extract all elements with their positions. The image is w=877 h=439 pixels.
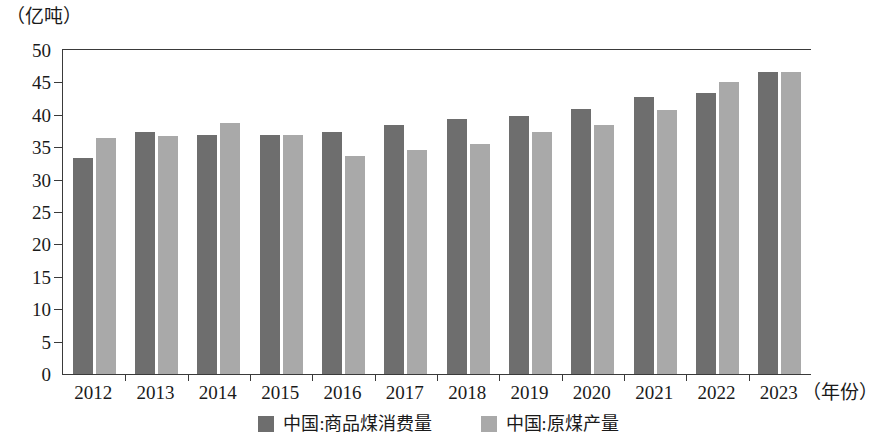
- bar-2019-series-1: [509, 116, 529, 374]
- bar-group-2015: [260, 50, 303, 374]
- y-tick-mark: [54, 309, 63, 310]
- y-tick-label: 50: [32, 41, 51, 60]
- x-axis-label-2015: 2015: [261, 382, 299, 403]
- bar-2020-series-2: [594, 125, 614, 374]
- legend-label: 中国:商品煤消费量: [283, 414, 432, 434]
- bar-2016-series-1: [322, 132, 342, 374]
- x-tick-mark: [624, 374, 625, 381]
- bar-group-2012: [73, 50, 116, 374]
- y-tick-label: 45: [32, 73, 51, 92]
- x-tick-mark: [312, 374, 313, 381]
- bar-2017-series-1: [384, 125, 404, 374]
- bar-2022-series-1: [696, 93, 716, 374]
- bar-2012-series-2: [96, 138, 116, 374]
- bar-group-2020: [571, 50, 614, 374]
- y-axis-unit-label: （亿吨）: [6, 6, 82, 28]
- y-tick-mark: [54, 115, 63, 116]
- bar-2023-series-2: [781, 72, 801, 374]
- y-tick-mark: [54, 212, 63, 213]
- y-tick-mark: [54, 277, 63, 278]
- bar-2015-series-2: [283, 135, 303, 374]
- y-tick-mark: [54, 180, 63, 181]
- bar-2016-series-2: [345, 156, 365, 374]
- x-tick-mark: [188, 374, 189, 381]
- bar-2014-series-1: [197, 135, 217, 374]
- x-axis-label-2021: 2021: [635, 382, 673, 403]
- x-tick-mark: [125, 374, 126, 381]
- y-tick-label: 0: [42, 365, 52, 384]
- x-tick-mark: [437, 374, 438, 381]
- x-axis-label-2017: 2017: [386, 382, 424, 403]
- bar-2022-series-2: [719, 82, 739, 374]
- chart-legend: 中国:商品煤消费量中国:原煤产量: [0, 414, 877, 434]
- bar-2021-series-1: [634, 97, 654, 374]
- bar-2019-series-2: [532, 132, 552, 374]
- x-tick-mark: [562, 374, 563, 381]
- y-tick-label: 5: [42, 332, 52, 351]
- bar-group-2018: [447, 50, 490, 374]
- bar-group-2022: [696, 50, 739, 374]
- x-tick-mark: [250, 374, 251, 381]
- bar-2023-series-1: [758, 72, 778, 374]
- x-tick-mark: [686, 374, 687, 381]
- bar-2017-series-2: [407, 150, 427, 374]
- coal-bar-chart: （亿吨） 05101520253035404550 20122013201420…: [0, 0, 877, 439]
- bar-group-2014: [197, 50, 240, 374]
- x-tick-mark: [499, 374, 500, 381]
- bar-group-2013: [135, 50, 178, 374]
- y-tick-mark: [54, 342, 63, 343]
- legend-item-2[interactable]: 中国:原煤产量: [481, 414, 619, 434]
- y-tick-label: 30: [32, 170, 51, 189]
- bar-2013-series-1: [135, 132, 155, 374]
- legend-swatch-icon: [481, 416, 497, 432]
- bar-2021-series-2: [657, 110, 677, 374]
- y-tick-mark: [54, 82, 63, 83]
- x-axis-label-2014: 2014: [199, 382, 237, 403]
- y-tick-label: 20: [32, 235, 51, 254]
- legend-swatch-icon: [258, 416, 274, 432]
- x-tick-mark: [375, 374, 376, 381]
- plot-area: 05101520253035404550: [62, 49, 811, 375]
- x-axis-label-2013: 2013: [137, 382, 175, 403]
- y-tick-label: 15: [32, 267, 51, 286]
- y-tick-label: 35: [32, 138, 51, 157]
- bar-2018-series-1: [447, 119, 467, 374]
- x-axis-title: （年份）: [802, 382, 877, 403]
- bar-2020-series-1: [571, 109, 591, 374]
- legend-item-1[interactable]: 中国:商品煤消费量: [258, 414, 432, 434]
- x-axis-label-2022: 2022: [698, 382, 736, 403]
- bar-group-2021: [634, 50, 677, 374]
- y-tick-mark: [54, 244, 63, 245]
- y-tick-mark: [54, 147, 63, 148]
- x-tick-mark: [749, 374, 750, 381]
- y-tick-label: 10: [32, 300, 51, 319]
- bar-group-2017: [384, 50, 427, 374]
- bar-2013-series-2: [158, 136, 178, 374]
- x-axis-label-2016: 2016: [324, 382, 362, 403]
- x-axis-label-2023: 2023: [760, 382, 798, 403]
- bar-group-2016: [322, 50, 365, 374]
- y-tick-label: 40: [32, 105, 51, 124]
- bar-2015-series-1: [260, 135, 280, 374]
- bar-2014-series-2: [220, 123, 240, 374]
- x-axis-label-2018: 2018: [448, 382, 486, 403]
- x-axis-label-2020: 2020: [573, 382, 611, 403]
- x-axis-label-2019: 2019: [511, 382, 549, 403]
- bar-group-2019: [509, 50, 552, 374]
- x-axis-label-2012: 2012: [74, 382, 112, 403]
- bar-2012-series-1: [73, 158, 93, 374]
- legend-label: 中国:原煤产量: [506, 414, 619, 434]
- y-tick-label: 25: [32, 203, 51, 222]
- bar-2018-series-2: [470, 144, 490, 374]
- bar-group-2023: [758, 50, 801, 374]
